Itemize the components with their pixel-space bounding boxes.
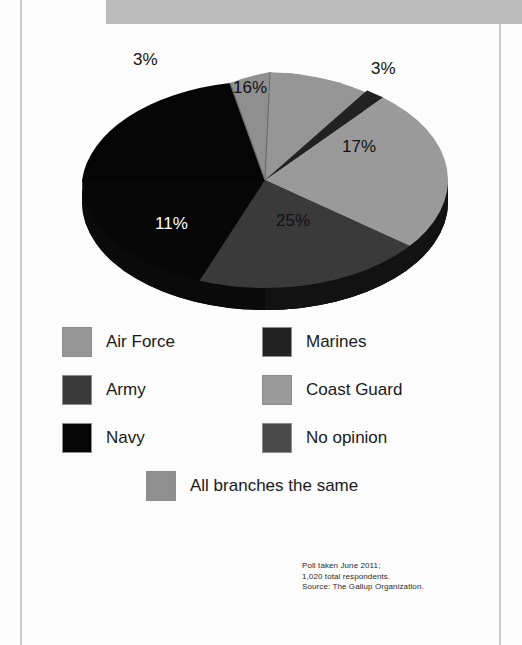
legend-label-army: Army [106, 380, 146, 400]
legend-swatch-icon-air-force [62, 327, 92, 357]
legend-item-coast-guard[interactable]: Coast Guard [262, 375, 462, 405]
legend-swatch-icon-all-branches [146, 471, 176, 501]
legend-label-all-branches: All branches the same [190, 476, 358, 496]
legend-item-navy[interactable]: Navy [62, 423, 262, 453]
pie-label-25pct: 25% [276, 211, 310, 231]
legend-swatch-icon-army [62, 375, 92, 405]
legend-swatch-icon-no-opinion [262, 423, 292, 453]
source-note: Poll taken June 2011; 1,020 total respon… [302, 561, 424, 593]
legend-label-coast-guard: Coast Guard [306, 380, 402, 400]
source-note-line-1: Poll taken June 2011; [302, 561, 424, 572]
pie-label-3pct-left: 3% [133, 50, 158, 70]
legend-label-marines: Marines [306, 332, 366, 352]
legend-label-air-force: Air Force [106, 332, 175, 352]
legend-item-air-force[interactable]: Air Force [62, 327, 262, 357]
right-page-rule [499, 24, 501, 645]
legend-label-no-opinion: No opinion [306, 428, 387, 448]
source-note-line-3: Source: The Gallup Organization. [302, 582, 424, 593]
legend-item-all-branches[interactable]: All branches the same [146, 471, 462, 501]
left-page-rule [20, 0, 22, 645]
top-gray-band [106, 0, 522, 24]
legend-swatch-icon-coast-guard [262, 375, 292, 405]
legend-item-army[interactable]: Army [62, 375, 262, 405]
pie-label-17pct: 17% [342, 137, 376, 157]
poll-infographic-page: 3% 16% 3% 17% 25% 11% Air Force Marines … [0, 0, 522, 645]
source-note-line-2: 1,020 total respondents. [302, 572, 424, 583]
legend-item-marines[interactable]: Marines [262, 327, 462, 357]
chart-legend: Air Force Marines Army Coast Guard Navy … [62, 327, 462, 501]
legend-swatch-icon-navy [62, 423, 92, 453]
legend-swatch-icon-marines [262, 327, 292, 357]
legend-label-navy: Navy [106, 428, 145, 448]
pie-label-3pct-right: 3% [371, 59, 396, 79]
pie-label-16pct: 16% [233, 78, 267, 98]
pie-label-11pct: 11% [155, 214, 188, 234]
pie-chart: 3% 16% 3% 17% 25% 11% [80, 50, 450, 320]
legend-item-no-opinion[interactable]: No opinion [262, 423, 462, 453]
